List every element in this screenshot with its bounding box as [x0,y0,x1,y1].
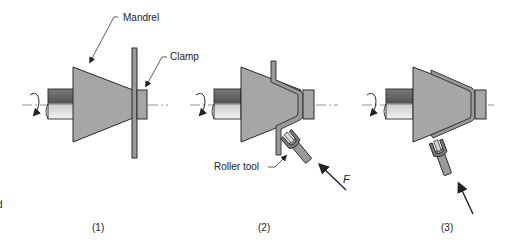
shaft [212,89,241,119]
edge-text-fragment: d [0,199,3,210]
shaft [46,89,74,119]
stage-1: Mandrel Clamp (1) [22,12,199,233]
workpiece-blank [132,48,137,158]
roller-tool [280,129,314,166]
clamp [303,90,314,119]
rotation-arrow-icon [30,93,39,115]
spinning-process-diagram: Mandrel Clamp (1) Roller tool F (2) [0,0,508,250]
roller-tool-leader [268,156,286,167]
clamp [475,90,486,119]
clamp-leader [146,57,167,86]
roller-tool-label: Roller tool [214,161,259,172]
step-label-2: (2) [258,222,270,233]
mandrel [73,67,133,142]
clamp [137,90,147,119]
mandrel-leader [90,17,118,62]
stage-2: Roller tool F (2) [190,61,351,233]
stage-3: (3) [362,67,494,233]
rotation-arrow-icon [196,93,205,115]
clamp-label: Clamp [170,51,199,62]
roller-tool [429,138,454,177]
mandrel-label: Mandrel [123,12,159,23]
step-label-3: (3) [441,222,453,233]
force-label: F [343,173,351,185]
rotation-arrow-icon [367,93,376,115]
step-label-1: (1) [92,222,104,233]
shaft [384,89,413,119]
force-arrow-icon [459,184,473,214]
